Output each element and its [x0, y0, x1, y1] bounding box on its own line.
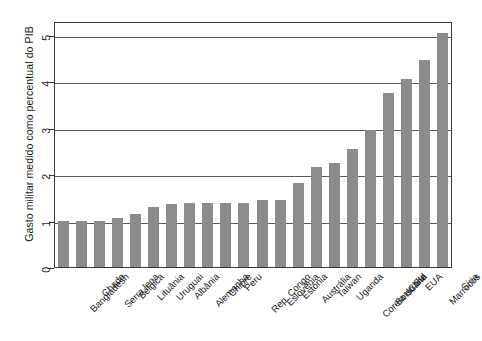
plot-area	[54, 22, 452, 268]
bar	[419, 60, 430, 267]
y-axis-title: Gasto militar medido como percentual do …	[23, 9, 35, 259]
bar	[166, 204, 177, 267]
bar	[202, 203, 213, 267]
bar	[76, 221, 87, 267]
bar	[311, 167, 322, 267]
bar	[220, 203, 231, 267]
bar	[401, 79, 412, 267]
bar	[347, 149, 358, 267]
bar	[238, 203, 249, 267]
bar	[184, 203, 195, 267]
bar	[275, 200, 286, 267]
y-tick-label: 5	[40, 35, 52, 53]
y-tick-label: 3	[40, 128, 52, 146]
bar	[130, 214, 141, 267]
bar	[437, 33, 448, 267]
y-tick-label: 1	[40, 221, 52, 239]
bar	[329, 163, 340, 267]
bar	[383, 93, 394, 267]
bar	[58, 221, 69, 267]
y-tick-label: 2	[40, 174, 52, 192]
x-axis-labels: BangladeshChadeSerra leoaBélgicaLituânia…	[54, 269, 452, 341]
bar	[148, 207, 159, 267]
bar	[293, 183, 304, 267]
y-tick-label: 4	[40, 81, 52, 99]
bar-series	[55, 23, 451, 267]
bar	[94, 221, 105, 267]
x-tick-label: EUA	[422, 271, 444, 293]
bar	[257, 200, 268, 267]
bar	[112, 218, 123, 267]
y-tick-label: 0	[40, 267, 52, 285]
bar	[365, 130, 376, 267]
